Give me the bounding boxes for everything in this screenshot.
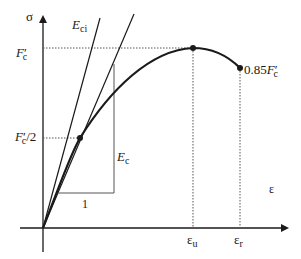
eps-u-label: εu: [187, 233, 197, 249]
eps-r-label: εr: [234, 233, 243, 249]
peak-point: [190, 45, 196, 51]
diagram-canvas: [0, 0, 301, 259]
eci-sub: ci: [80, 23, 87, 34]
fc-peak-label: F′c: [16, 46, 27, 62]
end-point: [237, 65, 243, 71]
initial-tangent-line: [43, 18, 100, 228]
eci-label: Eci: [72, 18, 87, 34]
stress-strain-diagram: σ ε Eci F′c F′c/2 0.85F′c Ec 1 εu εr: [0, 0, 301, 259]
stress-strain-curve: [43, 48, 240, 228]
fc-end-prefix: 0.85: [244, 62, 267, 77]
ec-main: E: [117, 149, 125, 164]
fc-end-label: 0.85F′c: [244, 63, 278, 79]
unit-run-label: 1: [82, 198, 88, 210]
secant-modulus-line: [43, 14, 134, 228]
fc-peak-sub: c: [23, 51, 27, 62]
y-axis-label: σ: [26, 10, 33, 23]
ec-sub: c: [125, 155, 129, 166]
half-stress-point: [77, 135, 83, 141]
eps-r-sub: r: [239, 238, 242, 249]
x-axis-label: ε: [269, 183, 274, 195]
eps-u-sub: u: [192, 238, 197, 249]
fc-half-label: F′c/2: [15, 130, 36, 146]
fc-end-sub: c: [274, 68, 278, 79]
fc-half-suffix: /2: [26, 129, 36, 144]
eci-main: E: [72, 17, 80, 32]
ec-label: Ec: [117, 150, 129, 166]
